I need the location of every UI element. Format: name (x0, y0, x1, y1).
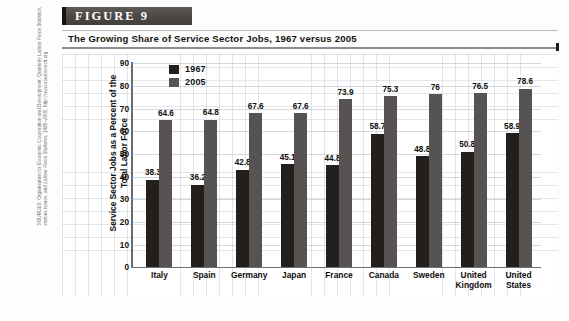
y-axis-tick-label: 10 (89, 240, 129, 250)
bar-group-bars: 45.167.6 (272, 63, 317, 267)
figure-title: The Growing Share of Service Sector Jobs… (68, 33, 357, 44)
x-axis-category-label: Japan (282, 270, 306, 281)
title-rule-end-cap (556, 43, 559, 51)
x-axis-category-label: UnitedStates (506, 270, 532, 291)
bar-1967: 36.2 (191, 185, 204, 267)
figure-badge-label: FIGURE 9 (66, 7, 192, 25)
bar-1967: 50.8 (461, 152, 474, 267)
y-axis-tick-label: 50 (89, 149, 129, 159)
x-axis-category-label: Spain (193, 270, 216, 281)
bar-value-label: 75.3 (382, 85, 398, 94)
bar-group-bars: 38.364.6 (137, 63, 182, 267)
bar-group-bars: 58.775.3 (361, 63, 406, 267)
source-italic-2: Labour Force Statistics, 1985–2005, (43, 107, 48, 184)
bar-2005: 64.6 (159, 120, 172, 266)
y-gridline (131, 267, 541, 268)
y-axis-tick-label: 20 (89, 217, 129, 227)
source-note: SOURCES: Organisation for Economic Coope… (37, 0, 50, 225)
source-prefix: SOURCES: Organisation for Economic Coope… (37, 56, 42, 225)
bar-2005: 76 (429, 94, 442, 266)
bar-2005: 73.9 (339, 99, 352, 267)
bar-group: 38.364.6Italy (137, 63, 182, 267)
x-axis-category-label: Sweden (413, 270, 445, 281)
title-rule-bottom (62, 47, 558, 49)
bar-2005: 67.6 (294, 113, 307, 266)
bar-group: 58.775.3Canada (361, 63, 406, 267)
y-axis-tick-label: 60 (89, 126, 129, 136)
y-axis-tick-label: 80 (89, 81, 129, 91)
bar-1967: 58.9 (506, 133, 519, 267)
bar-2005: 76.5 (474, 93, 487, 266)
bar-group: 36.264.8Spain (182, 63, 227, 267)
bar-group-bars: 44.873.9 (317, 63, 362, 267)
x-axis-category-label: Germany (231, 270, 267, 281)
bar-1967: 48.8 (416, 156, 429, 267)
bar-value-label: 67.6 (293, 102, 309, 111)
bar-2005: 67.6 (249, 113, 262, 266)
y-axis-line (131, 62, 133, 268)
source-italic-1: Labour Force Statistics, (37, 7, 42, 56)
bar-value-label: 64.6 (158, 109, 174, 118)
bar-2005: 75.3 (384, 96, 397, 267)
bar-value-label: 76.5 (472, 82, 488, 91)
bar-2005: 78.6 (519, 89, 532, 267)
bar-1967: 45.1 (281, 164, 294, 266)
y-axis-tick-label: 70 (89, 104, 129, 114)
x-axis-category-label: UnitedKingdom (456, 270, 492, 291)
title-rule-top (62, 30, 558, 31)
bar-value-label: 76 (431, 83, 440, 92)
bar-1967: 44.8 (326, 165, 339, 267)
bar-group: 58.978.6UnitedStates (496, 63, 541, 267)
bar-group: 48.876Sweden (406, 63, 451, 267)
source-middle: various issues, and (43, 184, 48, 226)
x-axis-category-label: Canada (369, 270, 399, 281)
bar-value-label: 78.6 (517, 77, 533, 86)
bar-value-label: 67.6 (248, 102, 264, 111)
bar-group: 50.876.5UnitedKingdom (451, 63, 496, 267)
figure-badge-container: FIGURE 9 (62, 7, 192, 25)
y-axis-tick-label: 0 (89, 262, 129, 272)
chart-area: Service Sector Jobs as a Percent of the … (62, 54, 558, 297)
x-axis-category-label: Italy (151, 270, 168, 281)
bar-group-bars: 42.867.6 (227, 63, 272, 267)
bar-group: 42.867.6Germany (227, 63, 272, 267)
y-axis-tick-label: 30 (89, 194, 129, 204)
bar-group: 44.873.9France (317, 63, 362, 267)
bar-group-bars: 58.978.6 (496, 63, 541, 267)
y-axis-tick-label: 90 (89, 58, 129, 68)
bar-1967: 38.3 (146, 180, 159, 267)
x-axis-category-label: France (325, 270, 352, 281)
plot-area: 0102030405060708090 1967 2005 38.364.6It… (131, 62, 541, 268)
bar-group-bars: 36.264.8 (182, 63, 227, 267)
bar-value-label: 64.8 (203, 108, 219, 117)
bar-group-bars: 50.876.5 (451, 63, 496, 267)
bar-1967: 58.7 (371, 134, 384, 267)
figure-page: SOURCES: Organisation for Economic Coope… (0, 0, 569, 321)
y-axis-tick-label: 40 (89, 172, 129, 182)
bar-value-label: 73.9 (338, 88, 354, 97)
bar-2005: 64.8 (204, 120, 217, 267)
bar-group: 45.167.6Japan (272, 63, 317, 267)
bar-group-bars: 48.876 (406, 63, 451, 267)
bar-1967: 42.8 (236, 170, 249, 267)
source-url: http://www.sourceoecd.org (43, 52, 48, 107)
